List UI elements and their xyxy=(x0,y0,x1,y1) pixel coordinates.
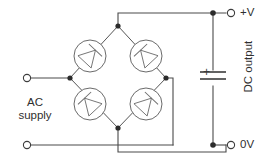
junction-bridge-top xyxy=(115,23,120,28)
diode-top-right xyxy=(130,40,162,72)
diode-top-left xyxy=(74,40,106,72)
circuit-schematic-svg xyxy=(0,0,270,167)
junction-bridge-bottom xyxy=(115,125,120,130)
junction-bridge-right xyxy=(163,75,168,80)
zero-rail-label: 0V xyxy=(240,138,254,151)
capacitor-polarity-label: + xyxy=(203,66,210,80)
junction-positive-rail xyxy=(210,10,216,16)
ac-terminal-top-ring xyxy=(23,74,30,81)
circuit-diagram: AC supply +V 0V DC output + xyxy=(0,0,270,167)
dc-terminal-positive-ring xyxy=(227,9,234,16)
ac-supply-label: AC supply xyxy=(6,96,64,122)
diode-bottom-right xyxy=(130,88,162,120)
diode-bottom-left xyxy=(74,88,106,120)
dc-output-label: DC output xyxy=(242,17,255,117)
zero-rail-wire xyxy=(118,128,226,152)
junction-bridge-left xyxy=(67,75,72,80)
ac-terminal-bottom-ring xyxy=(23,141,30,148)
junction-dots xyxy=(67,10,215,148)
dc-terminal-zero-ring xyxy=(227,141,234,148)
junction-zero-rail xyxy=(210,142,216,148)
positive-rail-wire xyxy=(118,13,226,26)
